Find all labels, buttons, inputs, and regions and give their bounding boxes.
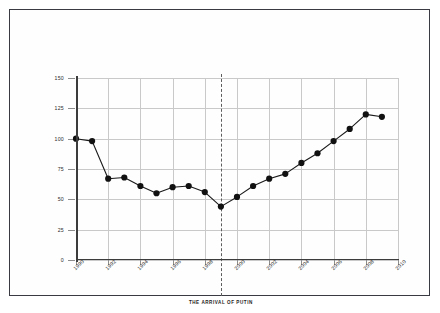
y-tick: [68, 199, 75, 200]
data-point: [314, 150, 320, 156]
data-point: [105, 176, 111, 182]
data-point: [363, 111, 369, 117]
y-tick: [68, 108, 75, 109]
y-tick-label: 25: [24, 227, 64, 233]
y-tick: [68, 260, 75, 261]
data-point: [347, 126, 353, 132]
data-point: [218, 204, 224, 210]
y-tick-label: 0: [24, 257, 64, 263]
data-point: [298, 160, 304, 166]
data-point: [170, 184, 176, 190]
data-point: [137, 183, 143, 189]
data-point: [234, 194, 240, 200]
data-point: [121, 174, 127, 180]
data-series-line: [76, 78, 398, 260]
data-point: [153, 190, 159, 196]
gridline-x: [398, 78, 399, 260]
putin-annotation-label: THE ARRIVAL OF PUTIN: [189, 300, 253, 305]
plot-area: [76, 78, 398, 260]
y-tick: [68, 230, 75, 231]
x-axis-line: [76, 259, 399, 260]
y-tick-label: 100: [24, 136, 64, 142]
data-point: [331, 138, 337, 144]
y-tick: [68, 78, 75, 79]
data-point: [250, 183, 256, 189]
series-markers: [73, 111, 385, 209]
data-point: [186, 183, 192, 189]
y-tick-label: 150: [24, 75, 64, 81]
y-tick: [68, 169, 75, 170]
y-tick-label: 75: [24, 166, 64, 172]
y-tick-label: 125: [24, 105, 64, 111]
data-point: [282, 171, 288, 177]
data-point: [202, 189, 208, 195]
y-axis-line: [76, 76, 78, 262]
data-point: [379, 114, 385, 120]
chart-frame: 0255075100125150 19901992199419961998200…: [9, 9, 430, 296]
data-point: [266, 176, 272, 182]
y-tick-label: 50: [24, 196, 64, 202]
data-point: [89, 138, 95, 144]
series-polyline: [76, 114, 382, 206]
